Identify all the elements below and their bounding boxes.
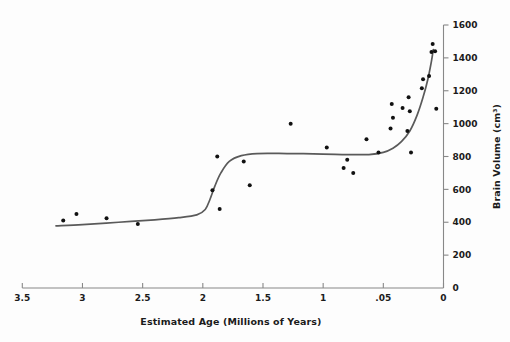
data-point [105, 216, 109, 220]
data-point [218, 207, 222, 211]
y-tick-label: 1200 [453, 86, 478, 96]
x-tick-label: 3.5 [14, 293, 30, 303]
data-point [215, 155, 219, 159]
data-point [389, 127, 393, 131]
data-point [391, 116, 395, 120]
data-point [421, 77, 425, 81]
y-axis-title: Brain Volume (cm³) [491, 104, 502, 209]
data-point [408, 109, 412, 113]
data-point [407, 95, 411, 99]
data-point [61, 219, 65, 223]
y-tick-label: 0 [453, 283, 459, 293]
x-tick-label: .05 [375, 293, 391, 303]
x-tick-label: 0 [440, 293, 446, 303]
x-axis-title: Estimated Age (Millions of Years) [140, 316, 321, 327]
axes-group [22, 25, 448, 288]
data-point [325, 145, 329, 149]
data-point [342, 166, 346, 170]
data-point [409, 150, 413, 154]
data-point [390, 102, 394, 106]
x-tick-label: 2.5 [135, 293, 151, 303]
x-tick-label: 3 [79, 293, 85, 303]
x-tick-label: 1 [320, 293, 326, 303]
data-point [420, 86, 424, 90]
data-points-group [61, 42, 438, 226]
data-point [289, 122, 293, 126]
chart-canvas: 3.532.521.51.050020040060080010001200140… [0, 0, 510, 342]
data-point [429, 50, 433, 54]
y-tick-label: 600 [453, 185, 472, 195]
data-point [401, 106, 405, 110]
data-point [210, 188, 214, 192]
y-tick-label: 400 [453, 217, 472, 227]
data-point [377, 150, 381, 154]
trend-curve-group [56, 50, 433, 226]
y-tick-label: 1400 [453, 53, 478, 63]
x-tick-label: 2 [200, 293, 206, 303]
y-tick-label: 1000 [453, 119, 478, 129]
trend-curve [56, 50, 433, 226]
data-point [433, 49, 437, 53]
data-point [345, 158, 349, 162]
y-tick-label: 800 [453, 152, 472, 162]
data-point [74, 212, 78, 216]
y-tick-label: 1600 [453, 20, 478, 30]
data-point [351, 171, 355, 175]
data-point [364, 137, 368, 141]
y-tick-label: 200 [453, 250, 472, 260]
data-point [427, 74, 431, 78]
data-point [248, 183, 252, 187]
data-point [136, 222, 140, 226]
data-point [434, 107, 438, 111]
data-point [405, 129, 409, 133]
data-point [242, 159, 246, 163]
x-tick-label: 1.5 [255, 293, 271, 303]
axis-labels-group: 3.532.521.51.050020040060080010001200140… [14, 20, 502, 327]
brain-volume-scatter-chart: 3.532.521.51.050020040060080010001200140… [0, 0, 510, 342]
data-point [431, 42, 435, 46]
